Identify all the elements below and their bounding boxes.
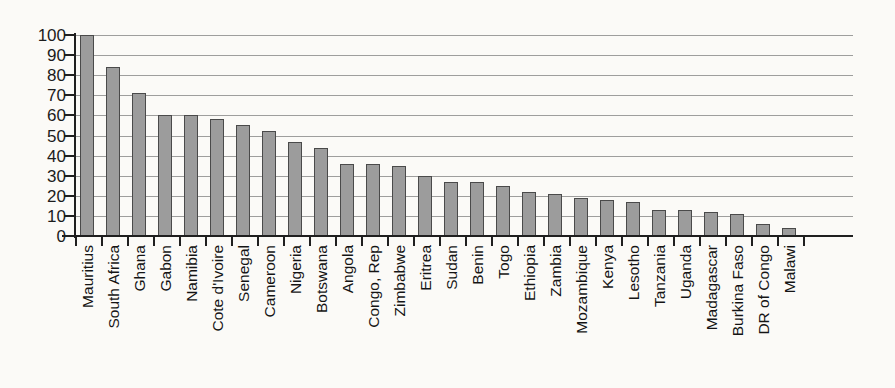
bar	[184, 115, 198, 236]
y-axis-tickmark	[64, 175, 75, 177]
x-axis-category-label: Zimbabwe	[392, 245, 408, 317]
x-axis-label-slot: Malawi	[777, 243, 803, 388]
bar	[288, 142, 302, 236]
bar-slot	[595, 35, 621, 236]
bar-slot	[777, 35, 803, 236]
x-axis-category-label: Benin	[470, 245, 486, 285]
plot-area	[75, 35, 853, 236]
x-axis-category-label: Zambia	[548, 245, 564, 297]
x-axis-category-label: South Africa	[106, 245, 122, 329]
y-axis-tick-label: 50	[32, 127, 66, 144]
bar	[548, 194, 562, 236]
x-axis-category-label: Nigeria	[288, 245, 304, 294]
bar-slot	[647, 35, 673, 236]
x-axis-category-label: Tanzania	[652, 245, 668, 307]
y-axis-tick-labels: 1009080706050403020100	[28, 0, 66, 388]
y-axis-tickmark	[64, 74, 75, 76]
x-axis-category-label: Malawi	[782, 245, 798, 293]
bar-slot	[75, 35, 101, 236]
bar-slot	[257, 35, 283, 236]
bar-slot	[205, 35, 231, 236]
bar	[132, 93, 146, 236]
bar	[574, 198, 588, 236]
bar	[314, 148, 328, 236]
bar-chart: 1009080706050403020100 MauritiusSouth Af…	[0, 0, 895, 388]
chart-page: 1009080706050403020100 MauritiusSouth Af…	[0, 0, 895, 388]
x-axis-category-labels: MauritiusSouth AfricaGhanaGabonNamibiaCo…	[75, 243, 853, 388]
x-axis-label-slot: Zimbabwe	[387, 243, 413, 388]
bar-slot	[621, 35, 647, 236]
x-axis-category-label: Angola	[340, 245, 356, 293]
y-axis-tickmark	[64, 155, 75, 157]
y-axis-tickmark	[64, 34, 75, 36]
x-axis-category-label: Gabon	[158, 245, 174, 292]
bar	[262, 131, 276, 236]
bar-slot	[413, 35, 439, 236]
y-axis-tick-label: 90	[32, 47, 66, 64]
x-axis-label-slot: Ethiopia	[517, 243, 543, 388]
x-axis-label-slot: Cote d'Ivoire	[205, 243, 231, 388]
y-axis-tick-label: 60	[32, 107, 66, 124]
bar-slot	[283, 35, 309, 236]
x-axis-label-slot: Zambia	[543, 243, 569, 388]
x-axis-label-slot: Gabon	[153, 243, 179, 388]
x-axis-label-slot: Ghana	[127, 243, 153, 388]
x-axis-category-label: Cote d'Ivoire	[210, 245, 226, 332]
bar	[652, 210, 666, 236]
bar	[210, 119, 224, 236]
bar-slot	[673, 35, 699, 236]
x-axis-category-label: DR of Congo	[756, 245, 772, 335]
x-axis-category-label: Madagascar	[704, 245, 720, 330]
bar	[392, 166, 406, 236]
y-axis-tick-label: 20	[32, 187, 66, 204]
x-axis-category-label: Togo	[496, 245, 512, 279]
y-axis-tick-label: 0	[32, 228, 66, 245]
bar-slot	[491, 35, 517, 236]
bar-slot	[231, 35, 257, 236]
bar-slot	[335, 35, 361, 236]
x-axis-label-slot: Burkina Faso	[725, 243, 751, 388]
bar-slot	[153, 35, 179, 236]
bar	[626, 202, 640, 236]
x-axis-category-label: Botswana	[314, 245, 330, 313]
bar-slot	[569, 35, 595, 236]
y-axis-tickmark	[64, 215, 75, 217]
bar	[704, 212, 718, 236]
x-axis-category-label: Congo, Rep	[366, 245, 382, 328]
y-axis-tick-label: 10	[32, 207, 66, 224]
x-axis-category-label: Mozambique	[574, 245, 590, 334]
bar	[158, 115, 172, 236]
bar-slot	[751, 35, 777, 236]
bar-slot	[309, 35, 335, 236]
bar	[366, 164, 380, 236]
bar	[600, 200, 614, 236]
bar-slot	[543, 35, 569, 236]
x-axis-label-slot: Sudan	[439, 243, 465, 388]
x-axis-label-slot: Botswana	[309, 243, 335, 388]
y-axis-tick-label: 70	[32, 87, 66, 104]
x-axis-label-slot: Mauritius	[75, 243, 101, 388]
x-axis-label-slot: Uganda	[673, 243, 699, 388]
bar	[444, 182, 458, 236]
bar	[730, 214, 744, 236]
y-axis-tickmark	[64, 54, 75, 56]
x-axis-category-label: Kenya	[600, 245, 616, 289]
bar-slot	[101, 35, 127, 236]
bar-slot	[725, 35, 751, 236]
y-axis-tickmark	[64, 235, 75, 237]
x-axis-category-label: Lesotho	[626, 245, 642, 300]
bar	[236, 125, 250, 236]
x-axis-category-label: Sudan	[444, 245, 460, 290]
bar	[496, 186, 510, 236]
y-axis-tick-label: 40	[32, 147, 66, 164]
bar	[106, 67, 120, 236]
bar	[80, 35, 94, 236]
y-axis-tickmark	[64, 135, 75, 137]
bar-series	[75, 35, 853, 236]
x-axis-label-slot: Lesotho	[621, 243, 647, 388]
x-axis-category-label: Ethiopia	[522, 245, 538, 301]
x-axis-label-slot: Madagascar	[699, 243, 725, 388]
x-axis-label-slot: Mozambique	[569, 243, 595, 388]
y-axis-tick-label: 100	[32, 27, 66, 44]
x-axis-category-label: Ghana	[132, 245, 148, 292]
